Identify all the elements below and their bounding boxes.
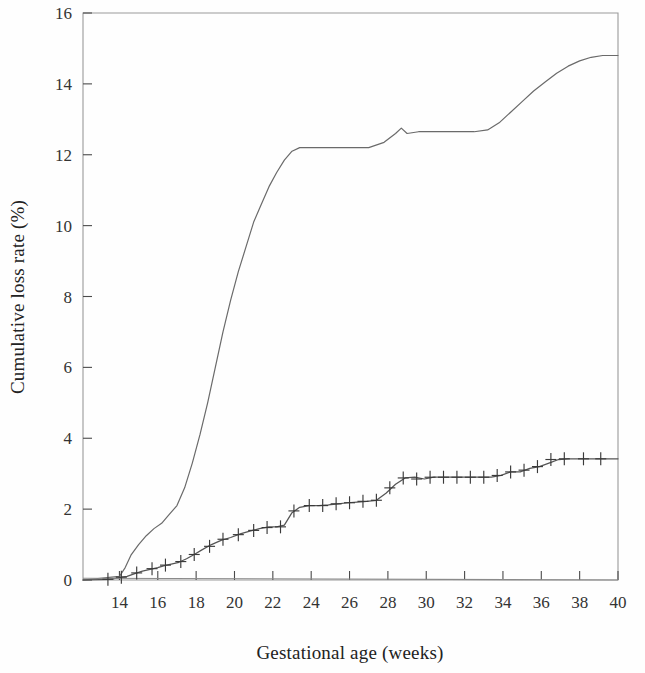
censor-mark <box>189 548 200 561</box>
censor-mark <box>371 494 382 507</box>
censor-mark <box>425 471 436 484</box>
x-tick-label: 30 <box>418 593 435 612</box>
censor-mark <box>331 497 342 510</box>
x-tick-label: 20 <box>226 593 243 612</box>
x-axis-title: Gestational age (weeks) <box>256 642 443 664</box>
censor-mark <box>532 460 543 473</box>
x-tick-label: 28 <box>379 593 396 612</box>
censor-mark <box>160 559 171 572</box>
x-tick-label: 24 <box>303 593 321 612</box>
censor-mark <box>116 571 127 584</box>
y-tick-label: 2 <box>64 500 73 519</box>
y-tick-label: 8 <box>64 288 73 307</box>
chart-figure: 1416182022242628303234363840 02468101214… <box>0 0 645 673</box>
censor-mark <box>357 495 368 508</box>
x-tick-label: 40 <box>610 593 627 612</box>
data-series-group <box>83 56 618 580</box>
censor-mark <box>131 566 142 579</box>
x-tick-label: 38 <box>571 593 588 612</box>
censor-mark <box>465 471 476 484</box>
censor-mark <box>595 452 606 465</box>
x-tick-label: 14 <box>111 593 129 612</box>
x-tick-label: 16 <box>149 593 166 612</box>
x-tick-label: 22 <box>264 593 281 612</box>
x-tick-label: 32 <box>456 593 473 612</box>
censor-mark <box>438 471 449 484</box>
censor-mark <box>275 520 286 533</box>
censor-mark <box>204 540 215 553</box>
censor-mark <box>217 533 228 546</box>
x-tick-label: 26 <box>341 593 358 612</box>
y-tick-label: 12 <box>55 146 72 165</box>
y-axis-ticks <box>83 13 92 580</box>
y-tick-label: 14 <box>55 75 73 94</box>
x-tick-label: 34 <box>494 593 512 612</box>
censor-mark <box>559 452 570 465</box>
y-tick-label: 10 <box>55 217 72 236</box>
y-axis-title: Cumulative loss rate (%) <box>7 200 29 394</box>
censor-mark <box>344 496 355 509</box>
censor-mark <box>304 499 315 512</box>
censor-mark <box>147 562 158 575</box>
y-tick-label: 6 <box>64 358 73 377</box>
censor-mark <box>411 473 422 486</box>
x-tick-label: 36 <box>533 593 550 612</box>
censor-marks-group <box>102 452 606 585</box>
series-upper-curve <box>83 56 618 580</box>
censor-mark <box>233 528 244 541</box>
y-tick-label: 0 <box>64 571 73 590</box>
x-tick-label: 18 <box>188 593 205 612</box>
censor-mark <box>248 524 259 537</box>
censor-mark <box>519 464 530 477</box>
y-tick-label: 4 <box>64 429 73 448</box>
censor-mark <box>492 469 503 482</box>
censor-mark <box>317 499 328 512</box>
censor-mark <box>578 452 589 465</box>
censor-mark <box>478 471 489 484</box>
plot-frame <box>83 13 618 580</box>
censor-mark <box>262 521 273 534</box>
x-axis-tick-labels: 1416182022242628303234363840 <box>111 593 627 612</box>
y-tick-label: 16 <box>55 4 72 23</box>
censor-mark <box>451 471 462 484</box>
censor-mark <box>175 555 186 568</box>
censor-mark <box>102 573 113 586</box>
series-lower-curve <box>83 459 618 580</box>
censor-mark <box>505 465 516 478</box>
y-axis-tick-labels: 0246810121416 <box>55 4 73 590</box>
chart-canvas: 1416182022242628303234363840 02468101214… <box>0 0 645 673</box>
